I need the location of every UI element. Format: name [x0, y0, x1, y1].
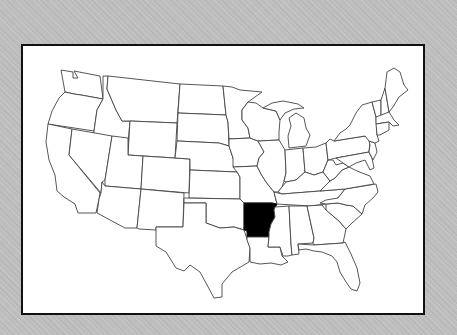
- state-maine: [385, 68, 408, 112]
- state-florida: [298, 242, 360, 291]
- state-colorado: [141, 156, 190, 193]
- state-arizona: [97, 182, 141, 228]
- us-map: [0, 0, 457, 335]
- state-wyoming: [128, 121, 177, 158]
- state-new-york: [334, 102, 379, 143]
- state-michigan-lower: [288, 113, 310, 148]
- state-kansas: [189, 170, 240, 199]
- state-new-mexico: [137, 189, 184, 230]
- state-connecticut-ri: [376, 122, 389, 135]
- state-north-dakota: [178, 84, 226, 115]
